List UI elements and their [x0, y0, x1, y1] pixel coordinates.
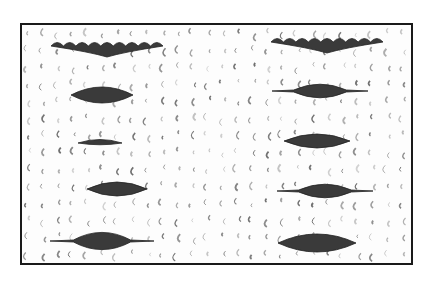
- knit-fabric-photo: [20, 23, 413, 265]
- eyelet-hole: [78, 140, 122, 145]
- eyelet-hole: [50, 232, 154, 249]
- eyelet-hole: [278, 234, 356, 252]
- eyelet-hole: [71, 87, 133, 103]
- eyelet-hole: [87, 182, 147, 196]
- fabric-texture: [22, 25, 411, 263]
- eyelet-hole: [272, 84, 368, 98]
- eyelet-hole: [284, 134, 350, 148]
- eyelet-hole: [271, 39, 383, 54]
- eyelet-hole: [51, 43, 163, 58]
- eyelet-hole: [277, 184, 373, 198]
